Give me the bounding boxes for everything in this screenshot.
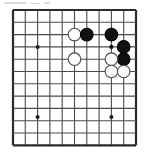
star-point-icon [36, 45, 40, 49]
black-stone-disc [117, 53, 130, 66]
white-stone-disc [68, 28, 81, 41]
scan-smudge [44, 2, 50, 4]
black-stone[interactable] [117, 41, 130, 54]
white-stone[interactable] [105, 53, 118, 66]
white-stone-disc [68, 53, 81, 66]
black-stone-disc [105, 28, 118, 41]
scan-smudge [4, 2, 26, 4]
black-stone-disc [81, 28, 94, 41]
board-background-group [0, 0, 158, 159]
go-board-canvas[interactable] [0, 0, 158, 159]
go-board-figure [0, 0, 158, 159]
black-stone[interactable] [117, 53, 130, 66]
black-stone[interactable] [105, 28, 118, 41]
markers-group [109, 45, 113, 49]
star-point-icon [109, 115, 113, 119]
move-marker-dot-icon [109, 45, 113, 49]
white-stone-disc [105, 53, 118, 66]
board-background [0, 0, 158, 159]
white-stone[interactable] [68, 53, 81, 66]
white-stone[interactable] [68, 28, 81, 41]
white-stone-disc [105, 65, 118, 78]
star-point-icon [36, 115, 40, 119]
scan-smudge [30, 3, 40, 4]
white-stone[interactable] [105, 65, 118, 78]
black-stone-disc [117, 41, 130, 54]
white-stone-disc [117, 65, 130, 78]
white-stone[interactable] [117, 65, 130, 78]
black-stone[interactable] [81, 28, 94, 41]
